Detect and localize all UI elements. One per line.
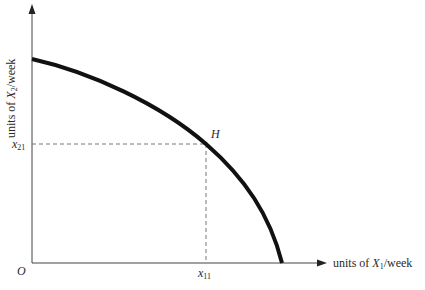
ppf-diagram — [0, 0, 425, 290]
x21-tick-label: x21 — [12, 138, 25, 152]
y-axis-label: units of X2/week — [4, 59, 19, 138]
origin-label: O — [17, 265, 26, 277]
x11-tick-label: x11 — [198, 267, 211, 281]
y-axis-arrow-icon — [29, 4, 36, 14]
frontier-curve — [32, 59, 282, 263]
point-h-label: H — [211, 128, 220, 140]
x-axis-arrow-icon — [317, 260, 327, 267]
x-axis-label: units of X1/week — [333, 257, 412, 271]
